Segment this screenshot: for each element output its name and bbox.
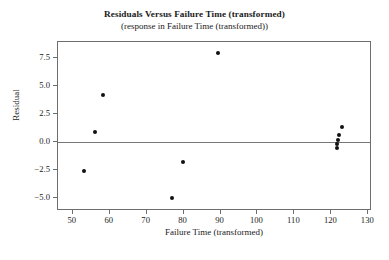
data-point bbox=[340, 125, 344, 129]
x-axis-tick-label: 60 bbox=[89, 215, 129, 225]
y-axis-tick bbox=[53, 197, 57, 198]
x-axis-tick-label: 50 bbox=[52, 215, 92, 225]
y-axis-tick-label: −2.5 bbox=[8, 164, 50, 174]
chart-subtitle: (response in Failure Time (transformed)) bbox=[0, 21, 389, 32]
x-axis-tick-label: 100 bbox=[236, 215, 276, 225]
x-axis-tick-label: 80 bbox=[163, 215, 203, 225]
x-axis-tick-label: 70 bbox=[126, 215, 166, 225]
x-axis-tick bbox=[330, 210, 331, 214]
data-point bbox=[181, 160, 185, 164]
x-axis-tick bbox=[146, 210, 147, 214]
y-axis-tick-label: 7.5 bbox=[8, 52, 50, 62]
y-axis-tick bbox=[53, 57, 57, 58]
data-point bbox=[170, 196, 174, 200]
x-axis-tick bbox=[183, 210, 184, 214]
data-point bbox=[93, 130, 97, 134]
data-point bbox=[335, 142, 339, 146]
y-axis-tick bbox=[53, 113, 57, 114]
y-axis-tick bbox=[53, 169, 57, 170]
x-axis-tick bbox=[220, 210, 221, 214]
x-axis-tick bbox=[109, 210, 110, 214]
plot-area bbox=[58, 42, 370, 209]
x-axis-label: Failure Time (transformed) bbox=[57, 227, 371, 237]
x-axis-tick bbox=[72, 210, 73, 214]
y-axis-label: Residual bbox=[11, 65, 21, 145]
x-axis-tick-label: 130 bbox=[347, 215, 387, 225]
chart-title: Residuals Versus Failure Time (transform… bbox=[0, 9, 389, 20]
y-axis-tick bbox=[53, 85, 57, 86]
x-axis-tick-label: 90 bbox=[200, 215, 240, 225]
y-axis-tick bbox=[53, 141, 57, 142]
data-point bbox=[337, 133, 341, 137]
x-axis-tick bbox=[293, 210, 294, 214]
x-axis-tick bbox=[256, 210, 257, 214]
zero-reference-line bbox=[58, 142, 370, 143]
plot-frame bbox=[57, 41, 371, 210]
x-axis-tick-label: 120 bbox=[310, 215, 350, 225]
data-point bbox=[82, 169, 86, 173]
x-axis-tick-label: 110 bbox=[273, 215, 313, 225]
data-point bbox=[335, 146, 339, 150]
y-axis-tick-label: −5.0 bbox=[8, 192, 50, 202]
data-point bbox=[101, 93, 105, 97]
figure-container: Residuals Versus Failure Time (transform… bbox=[0, 0, 389, 260]
data-point bbox=[216, 51, 220, 55]
x-axis-tick bbox=[367, 210, 368, 214]
